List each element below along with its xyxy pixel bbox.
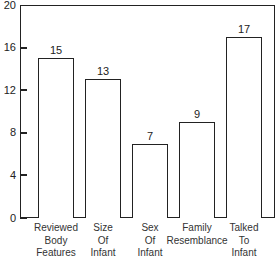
y-tick-12 <box>20 89 27 91</box>
y-tick-label: 8 <box>0 126 16 138</box>
x-category-label: Talked To Infant <box>218 222 270 260</box>
y-tick-label: 4 <box>0 169 16 181</box>
bar-sex-of-infant <box>132 144 168 218</box>
bar-size-of-infant <box>85 79 121 218</box>
bar-family-resemblance <box>179 122 215 218</box>
y-tick-16 <box>20 47 27 49</box>
x-category-label: Reviewed Body Features <box>30 222 82 260</box>
bar-chart: 0 4 8 12 16 20 15 13 7 9 17 Reviewed Bod… <box>0 0 280 264</box>
bar-value-label: 13 <box>85 65 121 77</box>
x-category-label: Size Of Infant <box>77 222 129 260</box>
bar-value-label: 17 <box>226 23 262 35</box>
y-tick-label: 20 <box>0 0 16 11</box>
y-tick-8 <box>20 132 27 134</box>
bar-value-label: 15 <box>38 44 74 56</box>
bar-talked-to-infant <box>226 37 262 218</box>
bar-value-label: 9 <box>179 108 215 120</box>
bar-reviewed-body-features <box>38 58 74 218</box>
y-tick-4 <box>20 174 27 176</box>
y-tick-label: 16 <box>0 41 16 53</box>
y-tick-0 <box>20 217 27 219</box>
bar-value-label: 7 <box>132 130 168 142</box>
y-tick-label: 12 <box>0 84 16 96</box>
y-tick-label: 0 <box>0 212 16 224</box>
